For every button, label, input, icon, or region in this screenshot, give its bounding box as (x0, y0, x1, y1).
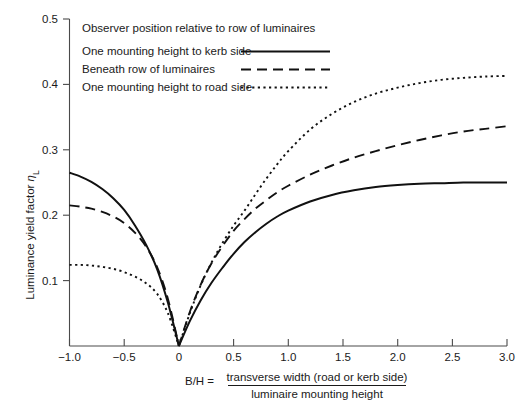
legend-label-0: One mounting height to kerb side (82, 45, 251, 57)
y-axis-tick-labels: 0.5 0.4 0.3 0.2 0.1 (42, 13, 59, 287)
x-axis-tick-labels: −1.0 −0.5 0 0.5 1.0 1.5 2.0 2.5 3.0 (58, 351, 515, 363)
y-tick-label-5: 0.5 (42, 13, 58, 25)
y-tick-label-2: 0.2 (42, 209, 58, 221)
x-axis-title-numerator: transverse width (road or kerb side) (227, 371, 408, 383)
curve-series-2-left (70, 265, 179, 346)
y-axis-title: Luminance yield factor ηL (24, 170, 41, 300)
x-tick-label-6: 2.0 (390, 351, 406, 363)
x-tick-label-7: 2.5 (444, 351, 460, 363)
svg-text:Luminance yield factor ηL: Luminance yield factor ηL (24, 170, 41, 300)
x-tick-label-5: 1.5 (335, 351, 351, 363)
x-axis-ticks (70, 339, 508, 346)
x-tick-label-0: −1.0 (58, 351, 81, 363)
curve-series-2-right (179, 76, 507, 346)
y-tick-label-4: 0.4 (42, 78, 59, 90)
y-axis-title-text: Luminance yield factor (24, 184, 36, 299)
x-tick-label-1: −0.5 (113, 351, 136, 363)
x-axis-title-denominator: luminaire mounting height (251, 388, 383, 400)
x-axis-title-lhs: B/H = (185, 375, 214, 387)
legend-label-1: Beneath row of luminaires (82, 63, 215, 75)
y-tick-label-1: 0.1 (42, 275, 58, 287)
chart-legend: Observer position relative to row of lum… (82, 22, 330, 93)
curve-series-0-left (70, 173, 179, 346)
y-tick-label-3: 0.3 (42, 144, 58, 156)
x-axis-title: B/H = transverse width (road or kerb sid… (185, 371, 408, 400)
luminance-yield-factor-chart: 0.5 0.4 0.3 0.2 0.1 −1.0 −0.5 0 0.5 1.0 … (0, 0, 525, 411)
chart-curves (70, 76, 508, 346)
x-tick-label-8: 3.0 (499, 351, 515, 363)
legend-label-2: One mounting height to road side (82, 81, 252, 93)
x-tick-label-4: 1.0 (280, 351, 296, 363)
chart-figure: 0.5 0.4 0.3 0.2 0.1 −1.0 −0.5 0 0.5 1.0 … (0, 0, 525, 411)
x-tick-label-2: 0 (176, 351, 182, 363)
curve-series-1-left (70, 205, 179, 346)
y-axis-ticks (63, 19, 70, 281)
x-tick-label-3: 0.5 (226, 351, 242, 363)
curve-series-0-right (179, 182, 507, 346)
curve-series-1-right (179, 126, 507, 346)
legend-title: Observer position relative to row of lum… (82, 22, 316, 34)
eta-subscript: L (31, 170, 41, 175)
